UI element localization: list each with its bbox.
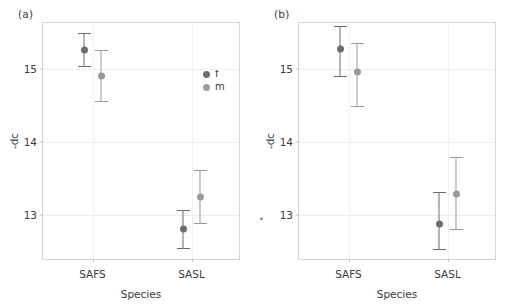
data-point-f-sasl[interactable] (436, 221, 443, 228)
errorbar-cap-bottom (351, 106, 364, 107)
errorbar-cap-top (78, 33, 91, 34)
errorbar-cap-bottom (450, 229, 463, 230)
y-gridline (43, 142, 239, 143)
y-axis-title-b: -dc (264, 133, 276, 149)
errorbar-m-safs (357, 43, 358, 108)
panel-a: (a) f m 131415SAFSSASL -dc Species (0, 0, 256, 308)
x-axis-title-a: Species (42, 288, 240, 300)
x-tick-label-safs: SAFS (335, 259, 362, 280)
errorbar-m-safs (101, 50, 102, 102)
errorbar-cap-bottom (433, 249, 446, 250)
y-gridline (299, 215, 495, 216)
y-tick-label: 13 (24, 209, 43, 221)
x-tick-label-sasl: SASL (434, 259, 461, 280)
legend-item-m[interactable]: m (203, 82, 225, 92)
x-gridline (93, 23, 94, 259)
data-point-m-sasl[interactable] (453, 191, 460, 198)
y-gridline (299, 69, 495, 70)
plot-area-a: f m 131415SAFSSASL (42, 22, 240, 260)
legend-a: f m (203, 69, 225, 92)
errorbar-cap-top (433, 192, 446, 193)
data-point-m-sasl[interactable] (197, 194, 204, 201)
data-point-f-sasl[interactable] (180, 225, 187, 232)
y-gridline (43, 69, 239, 70)
legend-marker-f-icon (203, 71, 210, 78)
y-tick-label: 14 (24, 136, 43, 148)
panel-b: (b) 131415SAFSSASL -dc Species • (256, 0, 512, 308)
x-axis-title-b: Species (298, 288, 496, 300)
errorbar-cap-bottom (95, 101, 108, 102)
legend-item-f[interactable]: f (203, 69, 225, 79)
y-gridline (43, 215, 239, 216)
y-axis-title-a: -dc (8, 133, 20, 149)
errorbar-cap-top (351, 43, 364, 44)
errorbar-f-sasl (183, 210, 184, 249)
errorbar-f-safs (84, 33, 85, 68)
x-gridline (192, 23, 193, 259)
errorbar-cap-top (450, 157, 463, 158)
data-point-f-safs[interactable] (337, 45, 344, 52)
errorbar-cap-bottom (334, 76, 347, 77)
errorbar-cap-top (334, 26, 347, 27)
x-gridline (448, 23, 449, 259)
panel-label-b: (b) (274, 8, 289, 20)
data-point-m-safs[interactable] (98, 72, 105, 79)
y-tick-label: 15 (24, 63, 43, 75)
y-tick-label: 15 (280, 63, 299, 75)
x-tick-label-sasl: SASL (178, 259, 205, 280)
errorbar-cap-top (177, 210, 190, 211)
data-point-m-safs[interactable] (354, 69, 361, 76)
x-gridline (349, 23, 350, 259)
errorbar-f-safs (340, 26, 341, 77)
errorbar-cap-top (194, 170, 207, 171)
plot-area-b: 131415SAFSSASL (298, 22, 496, 260)
errorbar-cap-bottom (78, 66, 91, 67)
data-point-f-safs[interactable] (81, 47, 88, 54)
errorbar-cap-bottom (194, 223, 207, 224)
y-tick-label: 13 (280, 209, 299, 221)
errorbar-m-sasl (200, 170, 201, 224)
x-tick-label-safs: SAFS (79, 259, 106, 280)
legend-marker-m-icon (203, 84, 210, 91)
errorbar-cap-top (95, 50, 108, 51)
errorbar-f-sasl (439, 192, 440, 250)
y-gridline (299, 142, 495, 143)
errorbar-cap-bottom (177, 248, 190, 249)
legend-label-m: m (215, 82, 225, 92)
legend-label-f: f (215, 69, 219, 79)
errorbar-m-sasl (456, 157, 457, 230)
y-tick-label: 14 (280, 136, 299, 148)
figure-root: (a) f m 131415SAFSSASL -dc Species (b) 1… (0, 0, 513, 308)
panel-label-a: (a) (18, 8, 33, 20)
stray-artifact-mark: • (259, 216, 264, 224)
